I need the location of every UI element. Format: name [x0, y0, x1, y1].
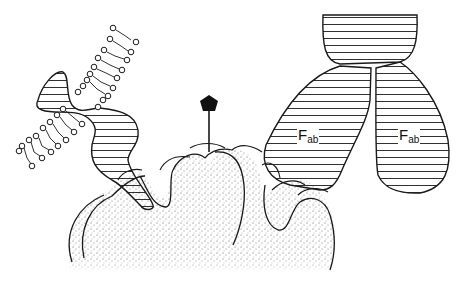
- fab-label-left: Fab: [297, 127, 319, 147]
- lipid-bilayer-lower: [16, 106, 85, 169]
- antibody: [264, 15, 449, 193]
- diagram-canvas: [0, 0, 465, 292]
- antibody-fc-stem: [323, 15, 417, 64]
- lipid-bilayer-upper: [75, 25, 139, 110]
- pentagon-icon: [200, 95, 218, 111]
- fab-label-right: Fab: [398, 127, 420, 147]
- membrane-receptor: [16, 25, 153, 209]
